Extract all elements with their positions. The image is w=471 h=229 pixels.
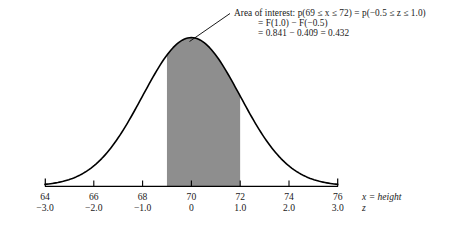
z-tick-label-1: −2.0: [72, 202, 116, 213]
z-tick-label-4: 1.0: [218, 202, 262, 213]
tick-label-group-3: 70 0: [169, 191, 213, 214]
tick-label-group-0: 64 −3.0: [23, 191, 67, 214]
tick-label-group-5: 74 2.0: [267, 191, 311, 214]
z-axis-name-label: z: [362, 202, 402, 213]
tick-label-group-6: 76 3.0: [316, 191, 360, 214]
tick-label-group-4: 72 1.0: [218, 191, 262, 214]
x-tick-label-6: 76: [316, 191, 360, 202]
z-tick-label-2: −1.0: [121, 202, 165, 213]
z-tick-label-6: 3.0: [316, 202, 360, 213]
x-tick-label-2: 68: [121, 191, 165, 202]
z-tick-label-5: 2.0: [267, 202, 311, 213]
x-tick-label-4: 72: [218, 191, 262, 202]
tick-label-group-2: 68 −1.0: [121, 191, 165, 214]
x-tick-label-5: 74: [267, 191, 311, 202]
normal-distribution-figure: Area of interest: p(69 ≤ x ≤ 72) = p(−0.…: [0, 0, 471, 229]
z-tick-label-0: −3.0: [23, 202, 67, 213]
z-tick-label-3: 0: [169, 202, 213, 213]
x-tick-label-0: 64: [23, 191, 67, 202]
x-tick-label-1: 66: [72, 191, 116, 202]
x-axis-name-label: x = height: [362, 191, 402, 202]
axis-name-labels: x = height z: [362, 191, 402, 214]
tick-label-group-1: 66 −2.0: [72, 191, 116, 214]
x-tick-label-3: 70: [169, 191, 213, 202]
